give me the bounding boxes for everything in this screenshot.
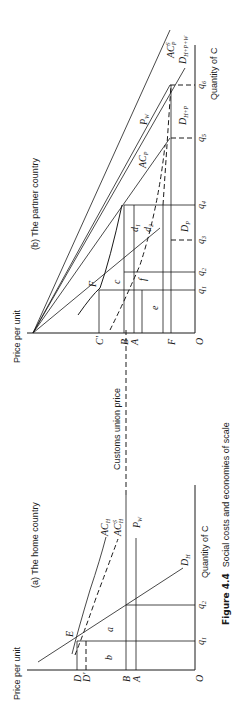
svg-text:q1: q1 bbox=[195, 286, 207, 294]
panel-b-title: (b) The partner country bbox=[30, 158, 40, 250]
svg-text:PW: PW bbox=[131, 516, 143, 529]
svg-text:ACP: ACP bbox=[137, 151, 149, 169]
panel-a-area-b: b bbox=[103, 655, 114, 660]
panel-b-label-pw: PW bbox=[138, 113, 150, 126]
panel-b-area-c: c bbox=[111, 279, 122, 284]
svg-text:q2: q2 bbox=[195, 268, 207, 276]
panel-a-y-axis-label: Price per unit bbox=[12, 646, 22, 700]
svg-text:q1: q1 bbox=[195, 637, 207, 645]
panel-b-area-f: f bbox=[137, 277, 148, 281]
panel-b-x-axis-label: Quantity of C bbox=[209, 47, 219, 100]
panel-b-dhpw-line bbox=[33, 68, 185, 333]
panel-a-area-a: a bbox=[104, 627, 115, 632]
panel-b-acps-line bbox=[33, 85, 170, 333]
svg-text:DH+P+W: DH+P+W bbox=[177, 35, 189, 65]
figure-caption: Figure 4.4Social costs and economies of … bbox=[221, 422, 231, 625]
panel-b-tick-q3: q3 bbox=[195, 236, 207, 244]
panel-b-acps-curve bbox=[110, 145, 165, 330]
panel-b-area-d1: d1 bbox=[129, 224, 141, 232]
panel-b-tick-q4: q4 bbox=[195, 201, 207, 209]
svg-text:ACPS: ACPS bbox=[165, 41, 177, 59]
panel-a-title: (a) The home country bbox=[30, 502, 40, 588]
panel-b-tick-f: F bbox=[166, 338, 177, 346]
panel-b-label-acp: ACP bbox=[137, 151, 149, 169]
panel-a-home-country: Price per unit (a) The home country Quan… bbox=[12, 330, 210, 700]
customs-union-price-label: Customs union price bbox=[112, 388, 122, 470]
svg-text:q6: q6 bbox=[195, 81, 207, 89]
panel-a-achs-curve bbox=[75, 539, 118, 655]
svg-text:PW: PW bbox=[138, 113, 150, 126]
svg-text:DP: DP bbox=[179, 221, 191, 233]
panel-a-point-e: E bbox=[64, 631, 75, 638]
svg-text:q4: q4 bbox=[195, 201, 207, 209]
panel-a-tick-q2: q2 bbox=[195, 601, 207, 609]
panel-b-origin: O bbox=[194, 338, 205, 345]
panel-a-label-ach: ACH bbox=[99, 518, 111, 537]
panel-b-tick-cprime: C' bbox=[94, 335, 105, 345]
svg-text:d2: d2 bbox=[142, 224, 154, 232]
svg-text:Figure 4.4Social costs and eco: Figure 4.4Social costs and economies of … bbox=[221, 422, 231, 625]
figure-4-4: Price per unit (a) The home country Quan… bbox=[0, 0, 242, 719]
panel-a-tick-q1: q1 bbox=[195, 637, 207, 645]
panel-a-x-axis-label: Quantity of C bbox=[200, 525, 210, 578]
svg-text:DH+P: DH+P bbox=[177, 105, 189, 126]
panel-b-tick-q5: q5 bbox=[195, 134, 207, 142]
panel-a-tick-a: A bbox=[131, 675, 142, 683]
panel-b-vertical-dash bbox=[163, 85, 171, 205]
svg-text:ACH: ACH bbox=[99, 518, 111, 537]
panel-b-partner-country: Price per unit (b) The partner country Q… bbox=[12, 30, 219, 363]
svg-text:q3: q3 bbox=[195, 236, 207, 244]
panel-b-y-axis-label: Price per unit bbox=[12, 309, 22, 363]
panel-b-point-f: F bbox=[87, 280, 98, 288]
panel-b-tick-q2: q2 bbox=[195, 268, 207, 276]
panel-b-label-dhp: DH+P bbox=[177, 105, 189, 126]
svg-text:q5: q5 bbox=[195, 134, 207, 142]
panel-a-label-dh: DH bbox=[179, 554, 191, 567]
panel-a-tick-dprime: D' bbox=[81, 672, 92, 683]
panel-b-area-e: e bbox=[149, 305, 160, 310]
panel-b-tick-q1: q1 bbox=[195, 286, 207, 294]
panel-b-dhp-line bbox=[33, 138, 170, 333]
svg-text:d1: d1 bbox=[129, 224, 141, 232]
panel-b-tick-q6: q6 bbox=[195, 81, 207, 89]
panel-b-pw-line-upper bbox=[33, 30, 170, 333]
panel-b-label-acps: ACPS bbox=[165, 41, 177, 59]
panel-b-tick-a: A bbox=[129, 338, 140, 346]
panel-a-demand-dh bbox=[38, 568, 183, 662]
panel-a-origin: O bbox=[194, 675, 205, 682]
panel-a-label-pw: PW bbox=[131, 516, 143, 529]
svg-text:DH: DH bbox=[179, 554, 191, 567]
panel-b-label-dp: DP bbox=[179, 221, 191, 233]
panel-a-label-achs: ACHS bbox=[112, 518, 124, 537]
panel-b-label-dhpw: DH+P+W bbox=[177, 35, 189, 65]
panel-b-area-d2: d2 bbox=[142, 224, 154, 232]
svg-text:ACHS: ACHS bbox=[112, 518, 124, 537]
svg-text:q2: q2 bbox=[195, 601, 207, 609]
